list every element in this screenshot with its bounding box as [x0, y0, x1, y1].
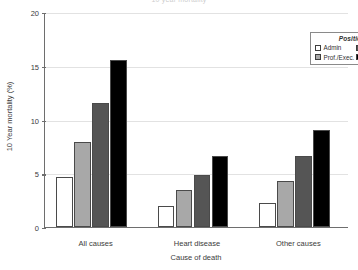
- x-group-label: Other causes: [276, 239, 321, 248]
- bar: [277, 181, 294, 227]
- bar: [176, 190, 193, 227]
- bar: [110, 60, 127, 227]
- y-tick-label: 5: [35, 170, 39, 179]
- x-group-label: Heart disease: [174, 239, 220, 248]
- legend-title: Position: [315, 35, 358, 42]
- x-axis-title: Cause of death: [44, 253, 348, 262]
- legend-entry: Admin: [315, 44, 354, 51]
- legend-swatch-icon: [315, 45, 321, 51]
- legend-label: Prof./Exec.: [324, 54, 355, 61]
- bar: [212, 156, 229, 227]
- legend-entry: Prof./Exec.: [315, 54, 354, 61]
- y-tick-mark: [42, 67, 46, 68]
- chart-figure: 10 year mortality 10 Year mortality (%) …: [0, 0, 358, 270]
- bar: [313, 130, 330, 227]
- y-tick-label: 0: [35, 224, 39, 233]
- y-tick-label: 20: [31, 9, 39, 18]
- plot-area: 05101520 All causesHeart diseaseOther ca…: [44, 13, 348, 228]
- legend-swatch-icon: [315, 54, 321, 60]
- y-tick-mark: [42, 228, 46, 229]
- y-axis-title: 10 Year mortality (%): [5, 32, 14, 202]
- legend-entries: AdminClericalProf./Exec.Other: [315, 44, 358, 61]
- y-tick-label: 15: [31, 62, 39, 71]
- bar: [56, 177, 73, 227]
- x-group-label: All causes: [79, 239, 113, 248]
- y-tick-mark: [42, 174, 46, 175]
- bar: [259, 203, 276, 227]
- legend: Position AdminClericalProf./Exec.Other: [310, 32, 358, 65]
- y-tick-mark: [42, 13, 46, 14]
- bar: [74, 142, 91, 227]
- bar: [158, 206, 175, 228]
- y-tick-mark: [42, 121, 46, 122]
- y-tick-label: 10: [31, 116, 39, 125]
- gridline: [45, 13, 348, 14]
- gridline: [45, 67, 348, 68]
- bar: [92, 103, 109, 227]
- bar: [295, 156, 312, 227]
- bar: [194, 175, 211, 227]
- gridline: [45, 121, 348, 122]
- legend-label: Admin: [324, 44, 342, 51]
- clipped-chart-title: 10 year mortality: [0, 0, 358, 4]
